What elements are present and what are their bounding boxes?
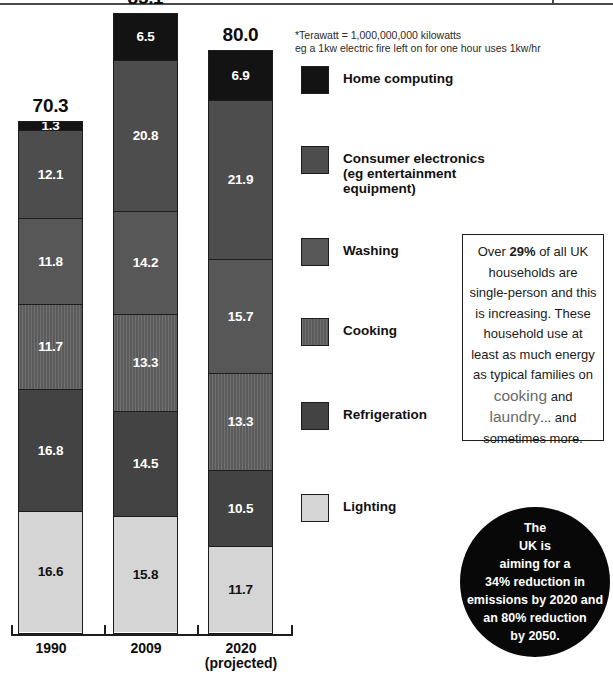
- uk-target-circle-stat: The UK is aiming for a 34% reduction in …: [460, 507, 610, 657]
- bar-segment-refrigeration: 10.5: [209, 471, 272, 547]
- bar-stack: 6.921.915.713.310.511.7: [208, 50, 273, 634]
- axis-category-label-2020: 2020 (projected): [186, 641, 296, 671]
- bar-segment-home-computing: 1.3: [19, 122, 82, 131]
- axis-label-line2: (projected): [186, 656, 296, 671]
- footnote-line-2: eg a 1kw electric fire left on for one h…: [295, 42, 585, 55]
- legend-row: Consumer electronics (eg entertainment e…: [301, 146, 485, 196]
- bar-segment-home-computing: 6.9: [209, 51, 272, 101]
- bar-segment-lighting: 16.6: [19, 512, 82, 632]
- bar-stack: 6.520.814.213.314.515.8: [113, 13, 178, 634]
- circle-line-2: UK is: [467, 537, 603, 555]
- callout-pct-29: 29%: [510, 244, 536, 259]
- circle-line-1: The: [467, 519, 603, 537]
- legend-row: Home computing: [301, 66, 453, 94]
- bar-group: 70.31.312.111.811.716.816.6: [18, 0, 83, 634]
- legend-swatch-lighting: [301, 494, 329, 522]
- legend-row: Washing: [301, 238, 399, 266]
- bar-segment-value-label: 14.2: [133, 256, 158, 270]
- legend-label: Home computing: [343, 66, 453, 86]
- bar-segment-refrigeration: 16.8: [19, 390, 82, 512]
- circle-line-7: by 2050.: [467, 627, 603, 645]
- bar-segment-value-label: 15.7: [228, 310, 253, 324]
- legend-label: Cooking: [343, 318, 397, 338]
- bar-segment-cooking: 13.3: [114, 315, 177, 412]
- legend-label: Washing: [343, 238, 399, 258]
- stacked-bar-chart: 70.31.312.111.811.716.816.685.16.520.814…: [0, 0, 300, 675]
- bar-segment-cooking: 11.7: [19, 305, 82, 390]
- bar-segment-value-label: 6.5: [136, 30, 154, 44]
- bar-segment-lighting: 11.7: [209, 547, 272, 632]
- axis-tick-start: [11, 625, 13, 636]
- axis-label-line1: 2009: [91, 641, 201, 656]
- bar-segment-value-label: 15.8: [133, 568, 158, 582]
- bar-total-label: 70.3: [18, 95, 83, 117]
- bar-segment-washing: 11.8: [19, 219, 82, 305]
- axis-tick-2: [197, 625, 199, 636]
- legend-swatch-cooking: [301, 318, 329, 346]
- legend-label: Lighting: [343, 494, 396, 514]
- bar-segment-value-label: 13.3: [133, 356, 158, 370]
- legend-swatch-home-computing: [301, 66, 329, 94]
- bar-segment-value-label: 16.8: [38, 444, 63, 458]
- bar-group: 85.16.520.814.213.314.515.8: [113, 0, 178, 634]
- callout-text-middle: of all UK households are single-person a…: [469, 244, 596, 382]
- axis-tick-end: [291, 625, 293, 636]
- footnote-line-1: *Terawatt = 1,000,000,000 kilowatts: [295, 29, 585, 42]
- terawatt-footnote: *Terawatt = 1,000,000,000 kilowatts eg a…: [295, 29, 585, 55]
- bar-segment-value-label: 11.7: [38, 340, 63, 354]
- bar-stack: 1.312.111.811.716.816.6: [18, 121, 83, 634]
- bar-segment-value-label: 10.5: [228, 502, 253, 516]
- bar-segment-value-label: 6.9: [231, 69, 249, 83]
- top-crop-border-corner: [552, 0, 554, 5]
- x-axis-line: [11, 634, 293, 636]
- bar-segment-lighting: 15.8: [114, 517, 177, 632]
- circle-stat-text: The UK is aiming for a 34% reduction in …: [467, 519, 603, 645]
- legend-label: Consumer electronics (eg entertainment e…: [343, 146, 485, 196]
- households-callout-box: Over 29% of all UK households are single…: [462, 234, 604, 441]
- bar-segment-value-label: 13.3: [228, 415, 253, 429]
- bar-segment-consumer-electronics: 20.8: [114, 61, 177, 212]
- bar-total-label: 80.0: [208, 24, 273, 46]
- bar-segment-value-label: 16.6: [38, 565, 63, 579]
- axis-tick-1: [104, 625, 106, 636]
- legend-row: Lighting: [301, 494, 396, 522]
- legend-swatch-refrigeration: [301, 402, 329, 430]
- bar-group: 80.06.921.915.713.310.511.7: [208, 0, 273, 634]
- callout-text-and: and: [547, 389, 572, 404]
- legend-row: Refrigeration: [301, 402, 427, 430]
- legend-swatch-consumer-electronics: [301, 146, 329, 174]
- bar-segment-value-label: 12.1: [38, 168, 63, 182]
- bar-segment-cooking: 13.3: [209, 374, 272, 471]
- legend-row: Cooking: [301, 318, 397, 346]
- bar-segment-refrigeration: 14.5: [114, 412, 177, 517]
- axis-category-label-2009: 2009: [91, 641, 201, 656]
- bar-segment-value-label: 11.7: [228, 583, 253, 597]
- circle-line-6: an 80% reduction: [467, 609, 603, 627]
- circle-line-5: emissions by 2020 and: [467, 591, 603, 609]
- bar-total-label: 85.1: [113, 0, 178, 9]
- bar-segment-value-label: 11.8: [38, 255, 63, 269]
- bar-segment-washing: 14.2: [114, 212, 177, 315]
- bar-segment-value-label: 21.9: [228, 173, 253, 187]
- legend-swatch-washing: [301, 238, 329, 266]
- bar-segment-home-computing: 6.5: [114, 14, 177, 61]
- bar-segment-consumer-electronics: 12.1: [19, 131, 82, 219]
- circle-line-3: aiming for a: [467, 555, 603, 573]
- axis-label-line1: 2020: [186, 641, 296, 656]
- callout-word-laundry: laundry: [490, 408, 541, 425]
- bar-segment-consumer-electronics: 21.9: [209, 101, 272, 260]
- bar-segment-washing: 15.7: [209, 260, 272, 374]
- bar-segment-value-label: 14.5: [133, 457, 158, 471]
- legend-label: Refrigeration: [343, 402, 427, 422]
- bar-segment-value-label: 20.8: [133, 129, 158, 143]
- callout-word-cooking: cooking: [494, 387, 547, 404]
- circle-line-4: 34% reduction in: [467, 573, 603, 591]
- callout-text-before: Over: [478, 244, 510, 259]
